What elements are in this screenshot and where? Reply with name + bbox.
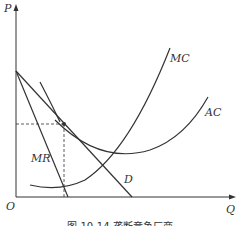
y-axis-label: P: [3, 2, 12, 15]
economics-diagram: P Q O MC AC MR D 图 10-14 垄断竞争厂商: [0, 0, 241, 226]
y-axis-arrow-icon: [14, 4, 19, 11]
mr-label: MR: [30, 152, 51, 165]
figure-caption: 图 10-14 垄断竞争厂商: [67, 220, 172, 226]
equilibrium-point: [62, 122, 66, 126]
ac-curve: [55, 97, 208, 154]
ac-label: AC: [204, 106, 222, 119]
d-label: D: [123, 173, 133, 186]
demand-segment: [40, 82, 60, 122]
mr-curve: [16, 71, 68, 197]
mc-label: MC: [169, 52, 190, 65]
x-axis-arrow-icon: [229, 195, 236, 200]
diagram-canvas: P Q O MC AC MR D 图 10-14 垄断竞争厂商: [0, 0, 241, 226]
demand-curve: [16, 71, 132, 197]
x-axis-label: Q: [226, 203, 235, 216]
mc-curve: [30, 48, 170, 188]
origin-label: O: [6, 200, 15, 213]
